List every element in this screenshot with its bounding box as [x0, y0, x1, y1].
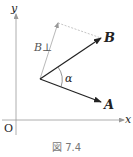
y-axis-label: y	[11, 3, 17, 14]
figure-caption: 図 7.4	[0, 139, 133, 154]
angle-arc	[58, 67, 62, 87]
x-axis-label: x	[125, 114, 131, 125]
vector-a-label: A	[104, 98, 114, 111]
figure: y x O B A B⊥ α 図 7.4	[0, 0, 133, 157]
angle-alpha-label: α	[65, 73, 72, 84]
vector-b-label: B	[104, 31, 115, 44]
b-perp-label: B⊥	[34, 42, 52, 53]
projection-dashed-line	[58, 23, 101, 38]
origin-label: O	[4, 123, 13, 134]
